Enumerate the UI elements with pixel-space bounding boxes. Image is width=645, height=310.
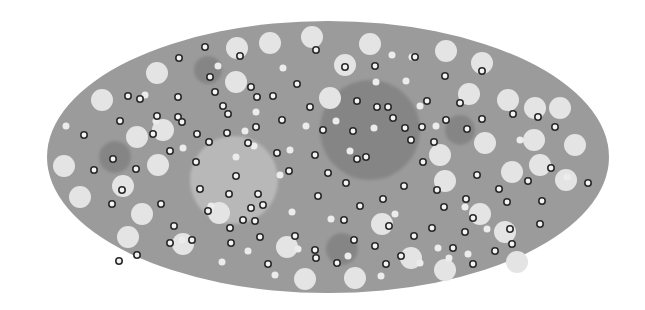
ringed-dot [343,180,349,186]
small-light-dot [446,255,453,262]
ringed-dot [320,127,326,133]
ringed-dot [552,124,558,130]
ringed-dot [372,63,378,69]
ringed-dot [510,111,516,117]
ringed-dot [224,130,230,136]
small-light-dot [180,145,187,152]
ringed-dot [462,229,468,235]
ringed-dot [420,159,426,165]
ringed-dot [240,217,246,223]
small-light-dot [215,63,222,70]
ringed-dot [492,248,498,254]
ringed-dot [470,261,476,267]
large-light-circle [523,129,545,151]
ringed-dot [429,225,435,231]
ringed-dot [479,68,485,74]
large-light-circle [435,40,457,62]
ringed-dot [260,202,266,208]
ringed-dot [442,73,448,79]
ringed-dot [226,191,232,197]
ringed-dot [194,131,200,137]
small-light-dot [233,154,240,161]
ringed-dot [252,218,258,224]
large-light-circle [359,33,381,55]
small-light-dot [328,216,335,223]
large-light-circle [53,155,75,177]
small-light-dot [373,79,380,86]
ringed-dot [91,167,97,173]
small-light-dot [245,248,252,255]
ringed-dot [137,96,143,102]
ringed-dot [175,94,181,100]
ringed-dot [233,173,239,179]
ringed-dot [274,150,280,156]
ringed-dot [357,203,363,209]
ringed-dot [197,186,203,192]
small-light-dot [345,253,352,260]
small-light-dot [347,148,354,155]
large-light-circle [225,71,247,93]
ringed-dot [313,255,319,261]
ringed-dot [434,187,440,193]
ringed-dot [411,233,417,239]
ringed-dot [374,104,380,110]
ringed-dot [341,217,347,223]
small-light-dot [389,52,396,59]
ringed-dot [398,253,404,259]
ringed-dot [270,93,276,99]
small-light-dot [371,125,378,132]
large-light-circle [501,161,523,183]
ringed-dot [307,104,313,110]
ringed-dot [354,156,360,162]
ringed-dot [292,233,298,239]
large-light-circle [91,89,113,111]
large-light-circle [69,186,91,208]
ringed-dot [380,196,386,202]
ringed-dot [265,261,271,267]
large-light-circle [294,268,316,290]
ringed-dot [257,234,263,240]
small-light-dot [433,123,440,130]
small-light-dot [378,273,385,280]
ringed-dot [441,204,447,210]
large-light-circle [434,259,456,281]
ringed-dot [525,178,531,184]
ringed-dot [248,205,254,211]
diagram-canvas [0,0,645,310]
large-light-circle [126,126,148,148]
ringed-dot [109,201,115,207]
ringed-dot [363,154,369,160]
ringed-dot [255,191,261,197]
small-light-dot [333,118,340,125]
ringed-dot [419,124,425,130]
ringed-dot [351,237,357,243]
ringed-dot [474,172,480,178]
ringed-dot [125,93,131,99]
ringed-dot [385,104,391,110]
small-light-dot [484,226,491,233]
ringed-dot [279,117,285,123]
small-light-dot [287,147,294,154]
ringed-dot [457,100,463,106]
ringed-dot [535,114,541,120]
ringed-dot [154,113,160,119]
ringed-dot [509,241,515,247]
ringed-dot [401,183,407,189]
small-light-dot [517,137,524,144]
large-light-circle [497,89,519,111]
ringed-dot [402,125,408,131]
ringed-dot [220,103,226,109]
ringed-dot [479,116,485,122]
small-light-dot [392,211,399,218]
ringed-dot [334,260,340,266]
ringed-dot [167,148,173,154]
ringed-dot [312,152,318,158]
ringed-dot [119,187,125,193]
large-light-circle [474,132,496,154]
large-light-circle [344,267,366,289]
large-light-circle [117,226,139,248]
small-light-dot [253,109,260,116]
small-light-dot [417,260,424,267]
ringed-dot [313,47,319,53]
small-light-dot [403,78,410,85]
